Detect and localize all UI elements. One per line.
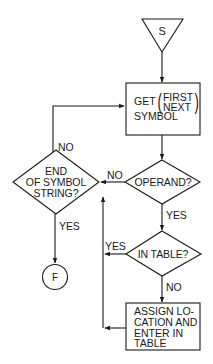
assign-line-2: CATION AND: [134, 317, 197, 328]
operand-no-label: NO: [107, 170, 123, 181]
get-prefix: GET: [134, 96, 156, 108]
end-yes-label: YES: [59, 221, 80, 232]
start-label: S: [155, 26, 169, 37]
finish-label: F: [48, 272, 62, 283]
end-of-string-label: END OF SYMBOL STRING?: [14, 166, 98, 199]
get-symbol-text: GET ( FIRST NEXT ) SYMBOL: [134, 91, 201, 123]
in-table-yes-label: YES: [105, 241, 126, 252]
operand-yes-label: YES: [166, 210, 187, 221]
left-paren: (: [157, 91, 161, 113]
assign-line-4: TABLE: [134, 338, 197, 349]
in-table-label: IN TABLE?: [128, 249, 198, 260]
operand-label: OPERAND?: [128, 177, 198, 188]
end-line-3: STRING?: [14, 188, 98, 199]
assign-label: ASSIGN LO- CATION AND ENTER IN TABLE: [134, 306, 197, 349]
end-no-label: NO: [58, 142, 74, 153]
in-table-no-label: NO: [166, 282, 182, 293]
get-options: FIRST NEXT: [163, 92, 193, 112]
right-paren: ): [195, 91, 199, 113]
